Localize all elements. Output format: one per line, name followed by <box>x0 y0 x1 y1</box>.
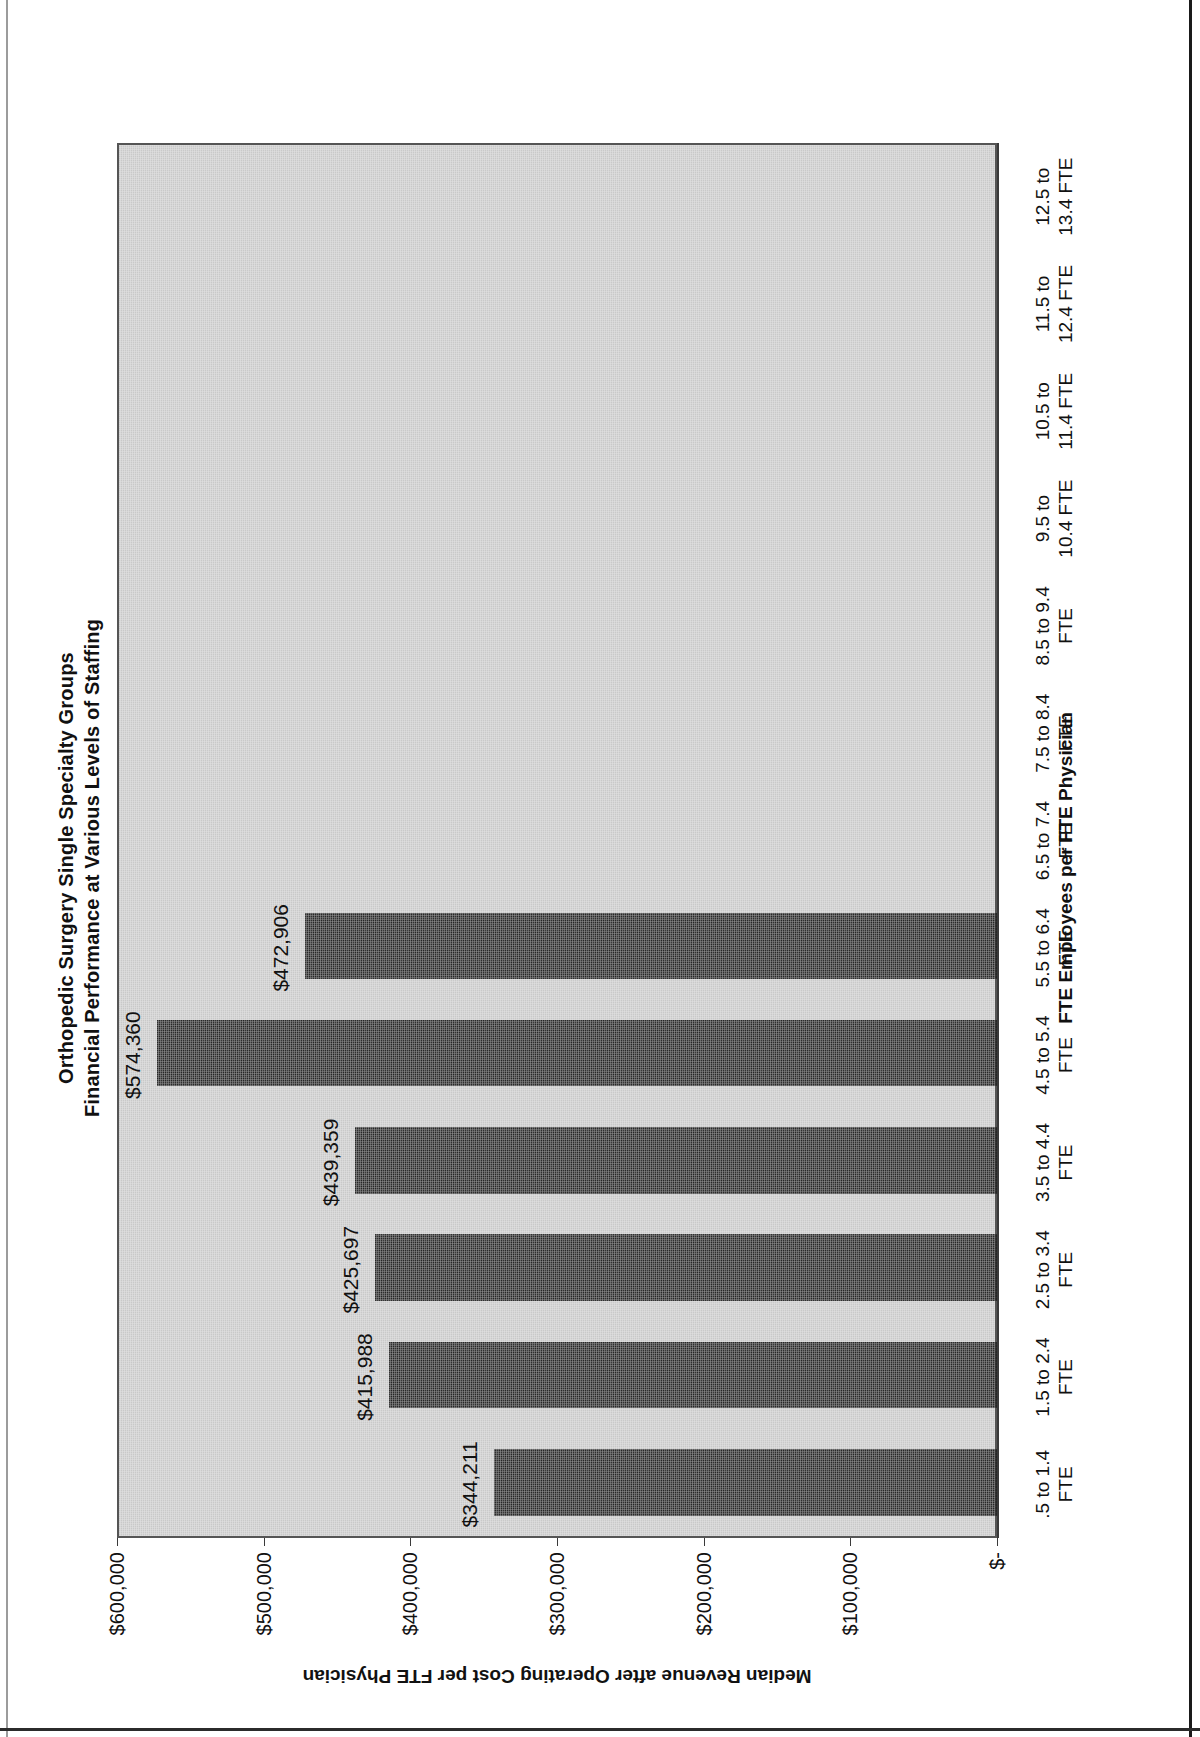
category-label-line: 12.5 to <box>1032 168 1053 226</box>
chart-title-block: Orthopedic Surgery Single Specialty Grou… <box>53 38 105 1698</box>
value-axis-tick <box>997 1538 998 1546</box>
value-axis-tick-label: $500,000 <box>252 1552 275 1635</box>
category-label-line: 4.5 to 5.4 <box>1032 1016 1053 1095</box>
rotated-chart-container: Orthopedic Surgery Single Specialty Grou… <box>45 38 1155 1698</box>
bar-chart: Orthopedic Surgery Single Specialty Grou… <box>45 38 1155 1698</box>
plot-wrapper: $344,211$415,988$425,697$439,359$574,360… <box>117 143 997 1538</box>
category-label-line: 2.5 to 3.4 <box>1032 1230 1053 1309</box>
bar <box>305 913 999 980</box>
value-axis-tick-label: $600,000 <box>106 1552 129 1635</box>
scanned-page: Orthopedic Surgery Single Specialty Grou… <box>0 0 1200 1737</box>
value-axis-tick <box>117 1538 118 1546</box>
bar-data-label: $415,988 <box>353 1333 377 1421</box>
value-axis-tick <box>850 1538 851 1546</box>
page-edge-right <box>1189 0 1192 1737</box>
bar-data-label: $344,211 <box>458 1441 482 1527</box>
category-label-line: 3.5 to 4.4 <box>1032 1123 1053 1202</box>
plot-area <box>117 143 997 1538</box>
value-axis-tick <box>704 1538 705 1546</box>
category-label-line: .5 to 1.4 <box>1032 1450 1053 1519</box>
category-label-line: 5.5 to 6.4 <box>1032 908 1053 987</box>
scan-texture <box>119 145 995 1536</box>
value-axis-tick-label: $400,000 <box>399 1552 422 1635</box>
value-axis-tick <box>410 1538 411 1546</box>
value-axis-tick-label: $300,000 <box>546 1552 569 1635</box>
category-label-line: 9.5 to <box>1032 495 1053 543</box>
bar-data-label: $439,359 <box>319 1119 343 1207</box>
category-label-line: 10.5 to <box>1032 382 1053 440</box>
bar-data-label: $425,697 <box>339 1226 363 1314</box>
category-label-line: 1.5 to 2.4 <box>1032 1337 1053 1416</box>
page-edge-left <box>6 0 8 1737</box>
category-label-line: 7.5 to 8.4 <box>1032 694 1053 773</box>
bar <box>355 1127 999 1194</box>
category-axis-title: FTE Employees per FTE Physician <box>1055 38 1077 1698</box>
category-label-line: 11.5 to <box>1032 276 1053 333</box>
bar <box>375 1234 999 1301</box>
bar-data-label: $574,360 <box>121 1011 145 1099</box>
page-edge-bottom <box>0 1728 1200 1731</box>
bar <box>494 1449 999 1516</box>
bar-data-label: $472,906 <box>269 904 293 992</box>
bar <box>157 1020 999 1087</box>
chart-subtitle: Financial Performance at Various Levels … <box>79 38 105 1698</box>
value-axis-title: Median Revenue after Operating Cost per … <box>303 1665 812 1687</box>
category-label-line: 6.5 to 7.4 <box>1032 801 1053 880</box>
value-axis-tick-label: $- <box>986 1552 1009 1570</box>
category-label-line: 8.5 to 9.4 <box>1032 586 1053 665</box>
bar <box>389 1342 999 1409</box>
value-axis-line <box>997 143 999 1538</box>
value-axis-tick-label: $200,000 <box>692 1552 715 1635</box>
value-axis-tick-label: $100,000 <box>839 1552 862 1635</box>
value-axis-tick <box>264 1538 265 1546</box>
value-axis-tick <box>557 1538 558 1546</box>
chart-title: Orthopedic Surgery Single Specialty Grou… <box>53 38 79 1698</box>
